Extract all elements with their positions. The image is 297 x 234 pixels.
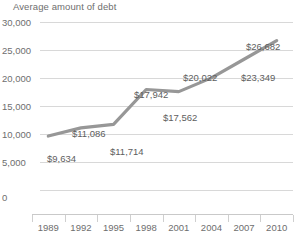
gridline-0 (40, 190, 293, 191)
x-tick-label-2004: 2004 (201, 222, 222, 233)
x-tick-end (293, 215, 294, 222)
y-axis: 30,000 25,000 20,000 15,000 10,000 5,000… (0, 17, 38, 210)
x-tick-1998 (130, 215, 131, 222)
x-tick-label-2001: 2001 (168, 222, 189, 233)
x-tick-label-2007: 2007 (233, 222, 254, 233)
point-label-1989: $9,634 (47, 153, 76, 164)
y-tick-label-20000: 20,000 (2, 73, 38, 84)
x-tick-2007 (228, 215, 229, 222)
x-tick-label-1992: 1992 (70, 222, 91, 233)
point-label-2007: $23,349 (241, 72, 275, 83)
point-label-2004: $20,022 (183, 72, 217, 83)
x-tick-1995 (97, 215, 98, 222)
x-tick-label-2010: 2010 (266, 222, 287, 233)
y-tick-label-5000: 5,000 (0, 157, 38, 168)
x-tick-label-1998: 1998 (136, 222, 157, 233)
x-tick-label-1989: 1989 (38, 222, 59, 233)
point-label-1995: $11,714 (110, 146, 144, 157)
gridline-30000 (40, 22, 293, 23)
y-tick-label-15000: 15,000 (2, 101, 38, 112)
point-label-2010: $26,682 (246, 41, 280, 52)
chart-title: Average amount of debt (13, 1, 116, 12)
x-tick-2010 (260, 215, 261, 222)
gridline-15000 (40, 106, 293, 107)
point-label-2001: $17,562 (163, 112, 197, 123)
gridline-5000 (40, 162, 293, 163)
x-tick-2001 (163, 215, 164, 222)
x-tick-1992 (65, 215, 66, 222)
x-tick-label-1995: 1995 (103, 222, 124, 233)
y-tick-label-30000: 30,000 (2, 17, 38, 28)
y-tick-label-10000: 10,000 (2, 129, 38, 140)
point-label-1998: $17,942 (134, 89, 168, 100)
y-tick-label-0: 0 (0, 192, 38, 203)
y-tick-label-25000: 25,000 (2, 45, 38, 56)
x-tick-2004 (195, 215, 196, 222)
line-chart: Average amount of debt 30,000 25,000 20,… (0, 0, 297, 234)
point-label-1992: $11,086 (72, 128, 106, 139)
x-tick-1989 (32, 215, 33, 222)
